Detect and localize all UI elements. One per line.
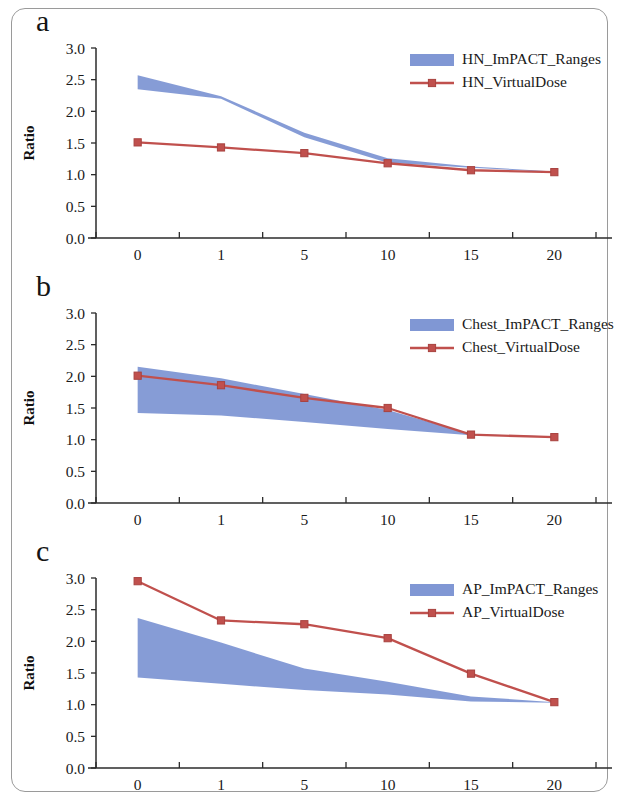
y-tick-label: 3.0 (66, 40, 86, 57)
legend-marker-line (428, 344, 435, 351)
data-point-marker (301, 394, 308, 401)
x-tick-label: 15 (463, 511, 479, 528)
x-tick-label: 10 (380, 776, 396, 793)
y-tick-label: 2.0 (66, 103, 86, 120)
plot-area-b: 0.00.51.01.52.02.53.0015101520Age (year)… (0, 265, 621, 530)
data-point-marker (384, 160, 391, 167)
data-point-marker (467, 431, 474, 438)
x-tick-label: 0 (134, 246, 142, 263)
x-tick-label: 15 (463, 776, 479, 793)
x-tick-label: 10 (380, 246, 396, 263)
x-tick-label: 0 (134, 776, 142, 793)
data-point-marker (551, 699, 558, 706)
y-tick-label: 1.5 (66, 665, 86, 682)
legend-label-band: HN_ImPACT_Ranges (462, 50, 601, 67)
y-tick-label: 1.0 (66, 431, 86, 448)
data-point-marker (217, 144, 224, 151)
x-tick-label: 5 (300, 246, 308, 263)
legend-marker-line (428, 79, 435, 86)
x-tick-label: 20 (547, 776, 563, 793)
data-point-marker (301, 621, 308, 628)
data-point-marker (134, 578, 141, 585)
y-tick-label: 2.0 (66, 368, 86, 385)
y-tick-label: 0.5 (66, 198, 86, 215)
y-tick-label: 1.5 (66, 135, 86, 152)
legend-label-line: AP_VirtualDose (462, 603, 565, 620)
y-tick-label: 2.5 (66, 336, 86, 353)
y-tick-label: 3.0 (66, 305, 86, 322)
data-point-marker (467, 670, 474, 677)
x-tick-label: 5 (300, 776, 308, 793)
legend-label-line: HN_VirtualDose (462, 73, 567, 90)
data-point-marker (134, 372, 141, 379)
legend-label-line: Chest_VirtualDose (462, 338, 580, 355)
data-point-marker (551, 169, 558, 176)
x-tick-label: 1 (217, 776, 225, 793)
data-point-marker (217, 617, 224, 624)
y-tick-label: 1.0 (66, 696, 86, 713)
y-tick-label: 3.0 (66, 570, 86, 587)
data-point-marker (467, 167, 474, 174)
x-tick-label: 1 (217, 511, 225, 528)
chart-panel-a: a 0.00.51.01.52.02.53.0015101520Age (yea… (0, 0, 621, 265)
y-tick-label: 1.5 (66, 400, 86, 417)
legend-swatch-band (410, 584, 454, 596)
x-tick-label: 20 (547, 511, 563, 528)
x-tick-label: 15 (463, 246, 479, 263)
plot-area-c: 0.00.51.01.52.02.53.0015101520Age (year)… (0, 530, 621, 795)
y-tick-label: 0.0 (66, 495, 86, 512)
data-point-marker (217, 382, 224, 389)
y-tick-label: 0.0 (66, 230, 86, 247)
y-tick-label: 0.0 (66, 760, 86, 777)
y-tick-label: 2.5 (66, 601, 86, 618)
data-point-marker (384, 404, 391, 411)
y-axis-title: Ratio (21, 391, 37, 426)
y-tick-label: 1.0 (66, 166, 86, 183)
y-axis-title: Ratio (21, 126, 37, 161)
x-tick-label: 10 (380, 511, 396, 528)
legend-label-band: Chest_ImPACT_Ranges (462, 315, 614, 332)
y-tick-label: 2.5 (66, 71, 86, 88)
data-point-marker (134, 139, 141, 146)
data-point-marker (551, 434, 558, 441)
x-tick-label: 5 (300, 511, 308, 528)
y-tick-label: 0.5 (66, 463, 86, 480)
y-axis-title: Ratio (21, 656, 37, 691)
legend-marker-line (428, 609, 435, 616)
legend-swatch-band (410, 319, 454, 331)
x-tick-label: 0 (134, 511, 142, 528)
data-point-marker (301, 150, 308, 157)
legend-swatch-band (410, 54, 454, 66)
plot-area-a: 0.00.51.01.52.02.53.0015101520Age (year)… (0, 0, 621, 265)
x-tick-label: 1 (217, 246, 225, 263)
legend-label-band: AP_ImPACT_Ranges (462, 580, 598, 597)
data-point-marker (384, 635, 391, 642)
chart-panel-c: c 0.00.51.01.52.02.53.0015101520Age (yea… (0, 530, 621, 795)
chart-panel-b: b 0.00.51.01.52.02.53.0015101520Age (yea… (0, 265, 621, 530)
y-tick-label: 0.5 (66, 728, 86, 745)
y-tick-label: 2.0 (66, 633, 86, 650)
x-tick-label: 20 (547, 246, 563, 263)
